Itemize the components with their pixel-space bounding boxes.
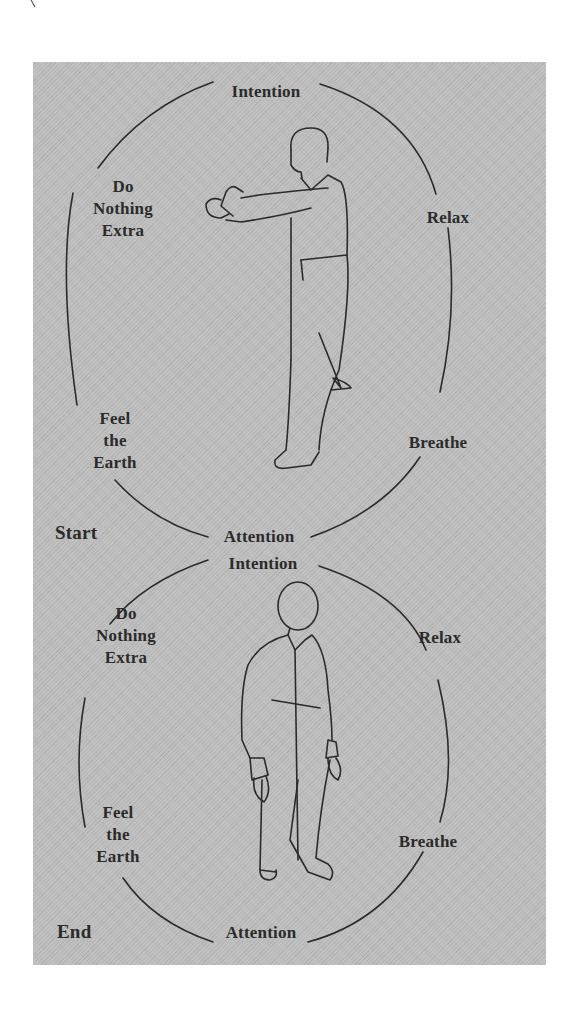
start-label-do: Do [78, 176, 168, 198]
start-label-breathe: Breathe [388, 432, 488, 454]
start-label-feel-the-earth: Feel the Earth [75, 408, 155, 474]
end-label-breathe: Breathe [378, 831, 478, 853]
end-label-earth: Earth [78, 846, 158, 868]
start-label-extra: Extra [78, 220, 168, 242]
start-label-the: the [75, 430, 155, 452]
end-label-do-nothing-extra: Do Nothing Extra [81, 603, 171, 669]
end-label-the: the [78, 824, 158, 846]
end-label-nothing: Nothing [81, 625, 171, 647]
start-label-relax: Relax [403, 207, 493, 229]
end-figure-drawing [242, 582, 341, 880]
end-label-extra: Extra [81, 647, 171, 669]
end-label-relax: Relax [395, 627, 485, 649]
end-label-intention: Intention [213, 553, 313, 575]
end-label-attention: Attention [211, 922, 311, 944]
start-label-feel: Feel [75, 408, 155, 430]
start-label-attention: Attention [209, 526, 309, 548]
end-label-feel-the-earth: Feel the Earth [78, 802, 158, 868]
figure-panel: Intention Do Nothing Extra Relax Feel th… [33, 62, 546, 965]
start-label-nothing: Nothing [78, 198, 168, 220]
stage-label-start: Start [33, 522, 97, 544]
stage-label-end: End [33, 921, 91, 943]
start-label-earth: Earth [75, 452, 155, 474]
corner-mark-icon [30, 0, 36, 8]
start-figure-drawing [206, 128, 351, 468]
start-label-do-nothing-extra: Do Nothing Extra [78, 176, 168, 242]
end-label-do: Do [81, 603, 171, 625]
start-label-intention: Intention [216, 81, 316, 103]
end-label-feel: Feel [78, 802, 158, 824]
